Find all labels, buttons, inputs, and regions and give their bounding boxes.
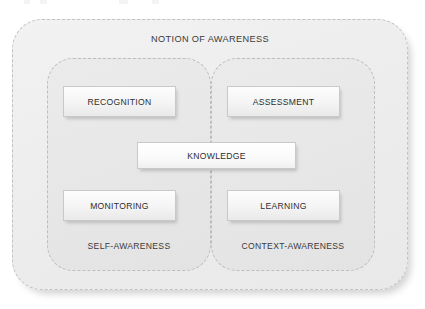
- concept-box-learning: LEARNING: [227, 190, 340, 221]
- concept-box-recognition: RECOGNITION: [63, 86, 176, 117]
- concept-box-knowledge: KNOWLEDGE: [137, 142, 296, 169]
- notion-of-awareness-container: NOTION OF AWARENESS SELF-AWARENESS CONTE…: [12, 19, 408, 290]
- diagram-title: NOTION OF AWARENESS: [13, 34, 407, 44]
- concept-box-assessment: ASSESSMENT: [227, 86, 340, 117]
- group-label-self-awareness: SELF-AWARENESS: [48, 241, 210, 251]
- concept-box-monitoring: MONITORING: [63, 190, 176, 221]
- group-label-context-awareness: CONTEXT-AWARENESS: [212, 241, 374, 251]
- page-edge-artifact: [24, 0, 214, 4]
